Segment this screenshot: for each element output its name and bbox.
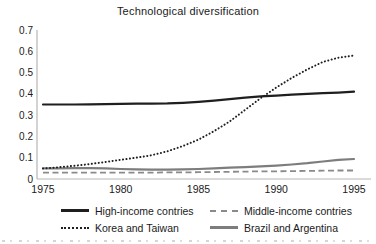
- legend-label: Korea and Taiwan: [95, 222, 179, 234]
- legend-label: High-income contries: [95, 205, 194, 217]
- legend-item-korea-taiwan: Korea and Taiwan: [61, 222, 210, 234]
- x-tick-label: 1975: [31, 183, 55, 195]
- legend-item-middle-income: Middle-income contries: [210, 205, 371, 217]
- series-line-1: [43, 171, 354, 173]
- series-line-2: [43, 56, 354, 169]
- x-tick-label: 1995: [342, 183, 366, 195]
- legend-label: Brazil and Argentina: [244, 222, 338, 234]
- y-tick-label: 0.7: [19, 25, 33, 36]
- legend-label: Middle-income contries: [244, 205, 352, 217]
- legend-item-high-income: High-income contries: [61, 205, 210, 217]
- legend-item-brazil-argentina: Brazil and Argentina: [210, 222, 371, 234]
- middle-income-line-sample-icon: [210, 210, 238, 212]
- high-income-line-sample-icon: [61, 209, 89, 212]
- chart-legend: High-income contries Middle-income contr…: [61, 202, 371, 236]
- x-tick-label: 1980: [109, 183, 133, 195]
- y-tick-label: 0.4: [19, 88, 33, 99]
- x-tick-label: 1985: [187, 183, 211, 195]
- line-chart-plot: 00.10.20.30.40.50.60.7197519801985199019…: [0, 0, 376, 200]
- y-tick-label: 0.2: [19, 131, 33, 142]
- korea-taiwan-line-sample-icon: [61, 227, 89, 229]
- x-tick-label: 1990: [265, 183, 289, 195]
- y-tick-label: 0.5: [19, 67, 33, 78]
- series-line-0: [43, 92, 354, 105]
- y-tick-label: 0.1: [19, 152, 33, 163]
- cropped-page-text-artifact: [2, 240, 374, 242]
- brazil-argentina-line-sample-icon: [210, 226, 238, 229]
- series-line-3: [43, 159, 354, 170]
- y-tick-label: 0.3: [19, 110, 33, 121]
- chart-figure: Technological diversification 00.10.20.3…: [0, 0, 376, 244]
- y-tick-label: 0.6: [19, 46, 33, 57]
